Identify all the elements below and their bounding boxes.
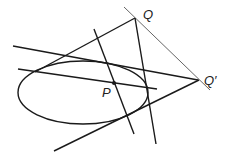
point-p: [112, 81, 116, 85]
label-q-prime: Q′: [204, 73, 217, 88]
line-q-down: [135, 18, 156, 144]
label-p: P: [102, 85, 111, 100]
polar-line-qq-prime: [124, 7, 210, 90]
label-q: Q: [143, 7, 153, 22]
line-q-left: [35, 18, 135, 72]
pole-polar-diagram: Q Q′ P: [0, 0, 227, 158]
line-through-p-horizontal: [18, 69, 157, 89]
line-bottom-to-q-prime: [54, 80, 199, 151]
